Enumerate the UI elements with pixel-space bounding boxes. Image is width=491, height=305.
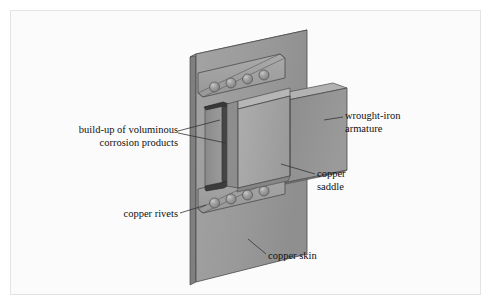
label-copper-saddle: copper saddle — [317, 168, 407, 193]
figure-canvas: build-up of voluminous corrosion product… — [0, 0, 491, 305]
rivet-lower-1 — [210, 198, 220, 208]
label-saddle-line2: saddle — [317, 181, 407, 194]
saddle-front-face — [238, 96, 290, 188]
rivet-upper-2 — [226, 78, 236, 88]
label-corrosion-line1: build-up of voluminous — [13, 124, 178, 137]
label-corrosion-build-up: build-up of voluminous corrosion product… — [13, 124, 178, 149]
saddle-cavity-face — [205, 103, 224, 190]
label-skin-line1: copper skin — [268, 250, 368, 263]
label-armature-line1: wrought-iron — [345, 110, 465, 123]
label-wrought-iron-armature: wrought-iron armature — [345, 110, 465, 135]
label-saddle-line1: copper — [317, 168, 407, 181]
copper-skin-left-edge — [190, 54, 196, 285]
rivet-lower-2 — [226, 194, 236, 204]
label-copper-skin: copper skin — [268, 250, 368, 263]
label-rivets-line1: copper rivets — [38, 208, 178, 221]
label-copper-rivets: copper rivets — [38, 208, 178, 221]
rivet-lower-3 — [243, 190, 253, 200]
label-armature-line2: armature — [345, 123, 423, 136]
technical-illustration — [0, 0, 491, 305]
saddle-cavity — [205, 103, 224, 190]
saddle-left-return — [227, 101, 238, 188]
rivet-upper-1 — [210, 82, 220, 92]
rivet-lower-4 — [259, 186, 269, 196]
label-corrosion-line2: corrosion products — [13, 137, 178, 150]
rivet-upper-4 — [259, 70, 269, 80]
copper-saddle — [227, 88, 290, 192]
rivet-upper-3 — [243, 74, 253, 84]
